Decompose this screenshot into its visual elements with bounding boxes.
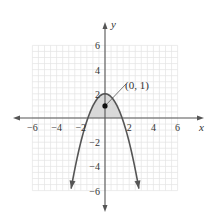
x-axis-label: x [198,121,204,133]
x-tick-label: −6 [27,122,38,133]
x-tick-label: 6 [175,122,180,133]
y-tick-label: −4 [89,161,100,172]
x-tick-label: −4 [51,122,62,133]
y-tick-label: −2 [89,137,100,148]
y-axis-label: y [110,18,116,30]
x-tick-label: −2 [75,122,86,133]
point-marker [102,103,107,108]
y-axis-up-arrow-icon [103,22,108,29]
x-tick-label: 4 [151,122,156,133]
parabola-graph: −6−4−2246642−2−4−6 x y (0, 1) [0,0,220,224]
y-tick-label: 4 [95,65,100,76]
x-tick-label: 2 [127,122,132,133]
x-axis-left-arrow-icon [13,116,20,121]
point-annotation: (0, 1) [125,79,149,92]
x-axis-right-arrow-icon [197,116,204,121]
y-tick-label: 2 [95,89,100,100]
y-axis-down-arrow-icon [103,205,108,212]
y-tick-label: 6 [95,40,100,51]
y-tick-label: −6 [89,186,100,197]
